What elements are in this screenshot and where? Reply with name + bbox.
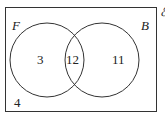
set-f-label: F	[11, 18, 21, 33]
venn-diagram: ℰ F B 3 12 11 4	[0, 0, 165, 117]
universal-set-symbol: ℰ	[160, 5, 165, 19]
outside-value: 4	[14, 95, 21, 110]
set-b-label: B	[141, 18, 149, 33]
intersection-value: 12	[66, 52, 79, 67]
universal-set-box	[6, 8, 157, 112]
b-only-value: 11	[112, 52, 125, 67]
f-only-value: 3	[37, 52, 44, 67]
